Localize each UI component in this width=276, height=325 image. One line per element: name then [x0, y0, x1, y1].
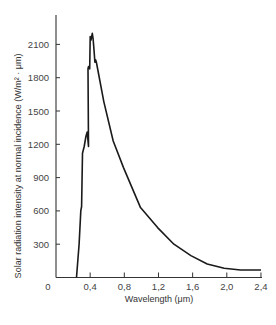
- x-tick-label: 1,6: [186, 281, 199, 292]
- x-tick-label: 2,0: [220, 281, 233, 292]
- x-tick-label: 2,4: [254, 281, 267, 292]
- axis-ticks: [56, 44, 261, 277]
- y-axis-label: Solar radiation intensity at normal inci…: [13, 54, 23, 279]
- y-tick-label: 600: [33, 205, 49, 216]
- y-tick-label: 1200: [28, 139, 49, 150]
- x-tick-label: 0,4: [84, 281, 97, 292]
- tick-labels: 300600900120015001800210000,40,81,21,62,…: [28, 39, 268, 292]
- y-tick-label: 900: [33, 172, 49, 183]
- y-tick-label: 1500: [28, 106, 49, 117]
- y-tick-label: 2100: [28, 39, 49, 50]
- x-tick-label: 0: [45, 281, 50, 292]
- solar-spectrum-chart: 300600900120015001800210000,40,81,21,62,…: [0, 0, 276, 325]
- y-tick-label: 1800: [28, 72, 49, 83]
- x-tick-label: 0,8: [118, 281, 131, 292]
- x-tick-label: 1,2: [152, 281, 165, 292]
- spectrum-curve: [77, 33, 262, 277]
- axes: [56, 15, 262, 278]
- x-axis-label: Wavelength (μm): [125, 294, 193, 304]
- y-tick-label: 300: [33, 239, 49, 250]
